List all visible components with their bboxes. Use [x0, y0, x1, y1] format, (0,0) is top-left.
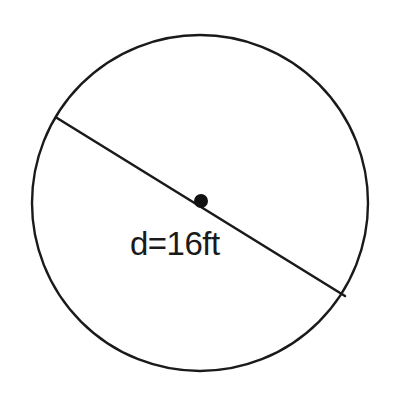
- geometry-figure-canvas: d=16ft: [0, 0, 398, 408]
- diameter-label-text: d=16ft: [130, 225, 220, 262]
- circle-diameter-diagram: d=16ft: [0, 0, 398, 408]
- center-point-dot: [194, 194, 208, 208]
